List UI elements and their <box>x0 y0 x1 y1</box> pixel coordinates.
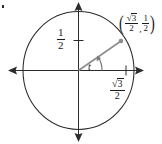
coordinate-x-fraction: √3 2 <box>125 13 138 34</box>
terminal-point-coordinates-label: ( √3 2 , 1 2 ) <box>118 13 156 34</box>
y-axis-value-label: 1 2 <box>57 27 65 51</box>
terminal-radius-group <box>79 39 124 71</box>
radicand: 3 <box>131 13 138 23</box>
fraction-one-half: 1 2 <box>57 27 65 51</box>
fraction-denominator: 2 <box>142 24 149 33</box>
fraction-sqrt3-over-2: √3 2 <box>110 78 125 101</box>
fraction-numerator: 1 <box>57 27 65 40</box>
fraction-denominator: 2 <box>125 24 138 33</box>
fraction-denominator: 2 <box>57 40 65 52</box>
fraction-numerator: √3 <box>125 13 138 24</box>
close-paren: ) <box>150 15 155 31</box>
fraction-denominator: 2 <box>110 91 125 102</box>
fraction-numerator: √3 <box>110 78 125 91</box>
open-paren: ( <box>119 15 124 31</box>
coordinate-y-fraction: 1 2 <box>142 14 149 34</box>
unit-circle-figure: 1 2 √3 2 ( √3 2 , 1 2 <box>0 0 162 144</box>
angle-label: t <box>88 62 91 72</box>
angle-arc-group <box>97 56 102 71</box>
terminal-point-marker <box>119 39 124 44</box>
square-root-expression: √3 <box>126 13 137 23</box>
square-root-expression: √3 <box>111 78 124 90</box>
radicand: 3 <box>117 78 124 90</box>
x-axis-value-label: √3 2 <box>110 78 125 101</box>
radius-segment <box>79 41 122 71</box>
